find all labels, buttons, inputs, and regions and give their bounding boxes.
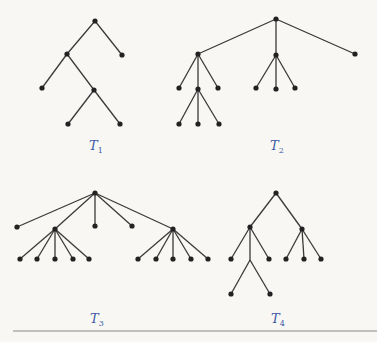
tree-edge: [250, 193, 276, 227]
tree-vertex: [253, 85, 258, 90]
tree-t4: [228, 190, 323, 296]
tree-vertex: [299, 226, 304, 231]
tree-vertex: [92, 223, 97, 228]
tree-vertex: [70, 256, 75, 261]
tree-vertex: [52, 256, 57, 261]
tree-vertex: [216, 121, 221, 126]
tree-vertex: [301, 256, 306, 261]
tree-vertex: [195, 86, 200, 91]
tree-edge: [286, 229, 302, 259]
tree-vertex: [34, 256, 39, 261]
tree-vertex: [39, 85, 44, 90]
tree-vertex: [247, 224, 252, 229]
tree-label-t3: T3: [90, 311, 104, 328]
tree-vertex: [292, 85, 297, 90]
tree-edge: [67, 21, 95, 54]
tree-edge: [95, 193, 173, 229]
tree-t2: [176, 16, 357, 126]
tree-edge: [138, 229, 173, 259]
tree-vertex: [188, 256, 193, 261]
tree-vertex: [318, 256, 323, 261]
tree-vertex: [14, 224, 19, 229]
tree-vertex: [195, 121, 200, 126]
tree-label-subscript: 3: [99, 319, 104, 328]
tree-edge: [173, 229, 191, 259]
tree-edge: [179, 89, 198, 124]
tree-t1: [39, 18, 124, 126]
tree-vertex: [228, 256, 233, 261]
tree-edge: [94, 90, 120, 124]
tree-vertex: [86, 256, 91, 261]
tree-vertex: [65, 121, 70, 126]
tree-label-subscript: 2: [279, 146, 284, 155]
tree-edge: [276, 19, 355, 54]
tree-edge: [250, 260, 270, 294]
tree-label-t1: T1: [89, 138, 103, 155]
tree-label-t4: T4: [271, 311, 285, 328]
tree-edge: [55, 229, 89, 259]
tree-edge: [231, 260, 250, 294]
tree-edge: [55, 193, 95, 229]
tree-vertex: [267, 291, 272, 296]
tree-edge: [198, 89, 219, 124]
tree-vertex: [176, 85, 181, 90]
tree-label-subscript: 4: [280, 319, 285, 328]
tree-vertex: [176, 121, 181, 126]
tree-t3: [14, 190, 210, 261]
tree-vertex: [273, 190, 278, 195]
tree-vertex: [92, 18, 97, 23]
tree-edge: [156, 229, 173, 259]
tree-edge: [20, 229, 55, 259]
tree-edge: [95, 21, 122, 55]
tree-vertex: [352, 51, 357, 56]
tree-edge: [67, 54, 94, 90]
tree-edge: [173, 229, 208, 259]
tree-vertex: [129, 223, 134, 228]
tree-vertex: [92, 190, 97, 195]
tree-vertex: [17, 256, 22, 261]
tree-vertex: [170, 226, 175, 231]
tree-label-subscript: 1: [98, 146, 103, 155]
tree-edge: [42, 54, 67, 88]
tree-edge: [231, 227, 250, 259]
tree-vertex: [228, 291, 233, 296]
tree-edge: [55, 229, 73, 259]
tree-vertex: [52, 226, 57, 231]
tree-edge: [95, 193, 132, 226]
tree-edge: [198, 19, 276, 54]
tree-vertex: [135, 256, 140, 261]
tree-edge: [256, 55, 276, 88]
tree-vertex: [283, 256, 288, 261]
tree-figure: T1T2T3T4: [0, 0, 377, 342]
tree-vertex: [91, 87, 96, 92]
tree-vertex: [273, 52, 278, 57]
tree-vertex: [195, 51, 200, 56]
tree-edge: [276, 193, 302, 229]
tree-vertex: [170, 256, 175, 261]
tree-vertex: [266, 256, 271, 261]
tree-edge: [198, 54, 218, 88]
tree-edge: [250, 227, 269, 259]
tree-vertex: [119, 52, 124, 57]
tree-edge: [37, 229, 55, 259]
tree-edge: [179, 54, 198, 88]
tree-label-t2: T2: [270, 138, 284, 155]
tree-vertex: [205, 256, 210, 261]
tree-edge: [276, 55, 295, 88]
tree-vertex: [117, 121, 122, 126]
tree-vertex: [273, 16, 278, 21]
tree-vertex: [64, 51, 69, 56]
tree-edge: [302, 229, 304, 259]
tree-edge: [68, 90, 94, 124]
tree-vertex: [153, 256, 158, 261]
tree-vertex: [273, 86, 278, 91]
tree-edge: [302, 229, 321, 259]
tree-edge: [17, 193, 95, 227]
tree-vertex: [215, 85, 220, 90]
